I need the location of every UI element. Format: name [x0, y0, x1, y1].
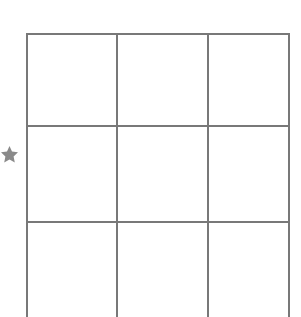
cell-r2c2[interactable] [118, 127, 207, 221]
cell-r3c1[interactable] [27, 223, 116, 317]
grid [0, 0, 301, 317]
screenshot-canvas [0, 0, 301, 317]
cell-r2c1[interactable] [27, 127, 116, 221]
cell-r1c3[interactable] [209, 34, 289, 125]
cell-r2c3[interactable] [209, 127, 289, 221]
cell-r3c3[interactable] [209, 223, 289, 317]
cell-r1c2[interactable] [118, 34, 207, 125]
cell-r1c1[interactable] [27, 34, 116, 125]
cell-r3c2[interactable] [118, 223, 207, 317]
row-marker-star[interactable] [0, 144, 20, 164]
